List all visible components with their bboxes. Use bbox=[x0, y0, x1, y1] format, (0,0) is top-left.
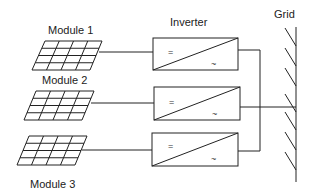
module-1-label: Module 1 bbox=[48, 24, 93, 36]
module-3-label: Module 3 bbox=[30, 178, 75, 190]
inverter-2-dc-symbol: = bbox=[169, 97, 174, 107]
pv-module-3-icon bbox=[17, 136, 87, 165]
inverter-1-dc-symbol: = bbox=[168, 47, 173, 57]
inverter-title: Inverter bbox=[170, 16, 208, 28]
pv-diagram: Module 1 Module 2 Module 3 Inverter Grid bbox=[0, 0, 309, 196]
inverter-2-ac-symbol: ~ bbox=[212, 109, 217, 119]
inverter-3-ac-symbol: ~ bbox=[211, 154, 216, 164]
inverter-3-dc-symbol: = bbox=[168, 141, 173, 151]
grid-label: Grid bbox=[274, 8, 295, 20]
pv-module-2-icon bbox=[24, 91, 94, 120]
inverter-3-icon bbox=[152, 133, 238, 166]
grid-icon bbox=[285, 27, 296, 182]
inverter-1-icon bbox=[153, 38, 238, 70]
inverter-2-icon bbox=[154, 87, 240, 120]
pv-module-1-icon bbox=[32, 41, 102, 70]
module-2-label: Module 2 bbox=[42, 74, 87, 86]
inverter-1-ac-symbol: ~ bbox=[211, 59, 216, 69]
